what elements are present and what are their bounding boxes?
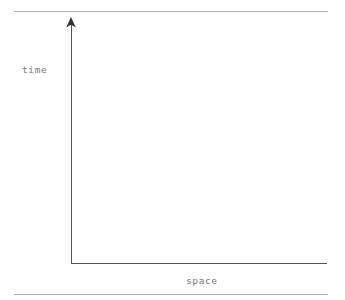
axes-drawing [0,0,345,300]
x-axis-label: space [186,275,218,286]
y-axis-label: time [22,64,47,75]
bottom-divider-rule [14,294,328,295]
spacetime-axes-figure: time space [0,0,345,300]
